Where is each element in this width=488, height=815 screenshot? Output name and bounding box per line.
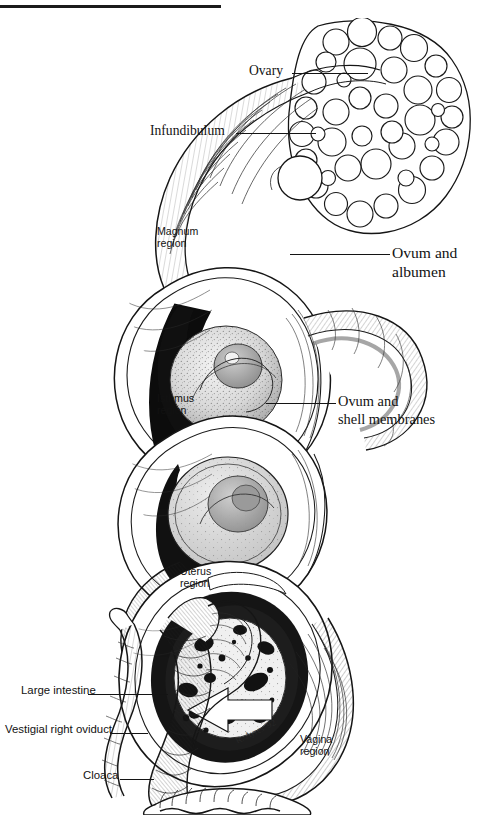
label-vestigial-right-oviduct: Vestigial right oviduct [5,723,112,735]
leader-line-cloaca [120,779,154,780]
leader-line-ovum-albumen [290,254,390,255]
label-vagina-region: Vagina region [300,733,332,758]
header-rule [0,5,221,8]
ovary-follicle-cluster [270,18,470,234]
label-infundibulum: Infundibulum [150,123,225,139]
label-ovum-and-albumen: Ovum and albumen [392,243,457,281]
label-large-intestine: Large intestine [21,684,96,696]
label-ovum-and-shell-membranes: Ovum and shell membranes [338,392,435,428]
label-uterus-region: Uterus region [180,565,211,590]
leader-line-ovary [292,73,368,74]
leader-line-ovum-shell-membranes [266,403,336,404]
label-isthmus-region: Isthmus region [157,392,194,417]
label-ovary: Ovary [249,63,283,79]
leader-line-infundibulum [236,133,316,134]
label-magnum-region: Magnum region [157,225,198,250]
scanned-book-page: minutes y and immedi- (or infundibu- duc… [0,0,488,815]
leader-line-large-intestine [88,694,168,695]
label-cloaca: Cloaca [83,769,118,781]
leader-line-vestigial-right-oviduct [110,733,148,734]
